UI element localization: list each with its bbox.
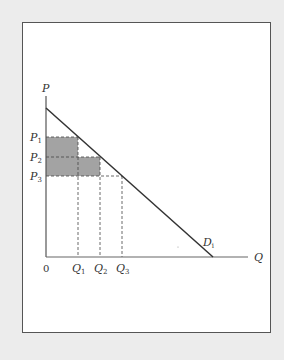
q1-label: Q1 [72, 262, 86, 276]
origin-label: 0 [43, 263, 49, 274]
q3-label: Q3 [116, 262, 130, 276]
q2-label: Q2 [94, 262, 108, 276]
p3-label: P3 [29, 170, 42, 184]
p2-label: P2 [29, 151, 42, 165]
demand-curve [46, 108, 213, 257]
demand-diagram: P Q 0 P1 P2 P3 Q1 Q2 Q3 Di [0, 0, 284, 360]
p1-label: P1 [29, 131, 42, 145]
demand-label: Di [202, 236, 215, 250]
quantity-guides [78, 137, 122, 257]
shaded-region-1 [46, 137, 78, 157]
speck-mark [177, 246, 178, 247]
shaded-region-2 [46, 157, 100, 176]
y-axis-label: P [41, 82, 50, 95]
x-axis-label: Q [254, 251, 263, 264]
